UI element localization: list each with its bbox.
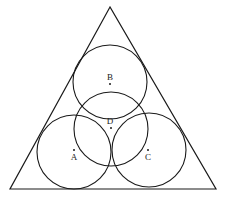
center-point-a xyxy=(73,149,75,151)
center-point-c xyxy=(147,149,149,151)
label-d: D xyxy=(107,116,114,126)
label-b: B xyxy=(107,72,113,82)
equilateral-triangle xyxy=(10,7,216,189)
center-point-b xyxy=(109,83,111,85)
geometry-diagram: A B C D xyxy=(0,0,227,201)
label-a: A xyxy=(71,152,78,162)
circle-b xyxy=(73,45,147,119)
label-c: C xyxy=(145,152,151,162)
center-point-d xyxy=(110,127,112,129)
